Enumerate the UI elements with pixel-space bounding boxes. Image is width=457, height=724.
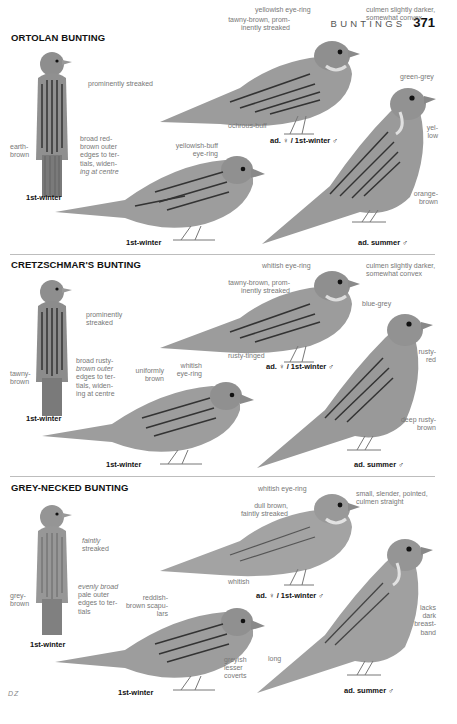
annotation-lacks-dark-breast-band: lacksdark breast-band	[412, 604, 436, 637]
annotation-prominently-streaked: prominently streaked	[88, 80, 153, 88]
annotation-whitish: whitish	[228, 578, 249, 586]
annotation-culmen: culmen slightly darker,somewhat convex	[366, 262, 435, 278]
annotation-grey-brown: grey-brown	[10, 592, 34, 608]
annotation-long-tail: long	[268, 655, 281, 663]
annotation-culmen: culmen slightly darker,somewhat convex	[366, 6, 435, 22]
annotation-orange-brown: orange-brown	[408, 190, 438, 206]
caption-juvenile: 1st-winter	[106, 460, 141, 469]
annotation-earth-brown: earth-brown	[10, 143, 34, 159]
caption-male: ad. summer ♂	[354, 460, 404, 469]
annotation-faintly-streaked: faintlystreaked	[82, 537, 109, 553]
annotation-whitish-eye-ring: whitish eye-ring	[262, 262, 311, 270]
annotation-prominently-streaked: prominentlystreaked	[86, 311, 122, 327]
annotation-rusty-red: rusty-red	[414, 348, 436, 364]
annotation-yellowish-buff-eye-ring: yellowish-buffeye-ring	[170, 142, 218, 158]
bird-illustration-male	[255, 310, 435, 470]
bird-illustration-juvenile	[55, 150, 265, 245]
caption-juvenile: 1st-winter	[126, 238, 161, 247]
caption-juvenile: 1st-winter	[118, 688, 153, 697]
annotation-yellow-throat: yel-low	[420, 124, 438, 140]
annotation-whitish-eye-ring: whitish eye-ring	[258, 485, 307, 493]
annotation-culmen: small, slender, pointed,culmen straight	[356, 490, 428, 506]
bird-illustration-male	[260, 82, 440, 247]
species-title-grey-necked: GREY-NECKED BUNTING	[11, 482, 129, 493]
annotation-uniformly-brown: uniformlybrown	[130, 367, 164, 383]
bird-illustration-male	[255, 535, 435, 695]
annotation-dull-brown: dull brown,faintly streaked	[230, 502, 288, 518]
annotation-green-grey: green-grey	[400, 73, 434, 81]
species-title-ortolan: ORTOLAN BUNTING	[11, 32, 105, 43]
annotation-greyish-lesser-coverts: greyishlessercoverts	[224, 656, 247, 681]
annotation-tawny-brown: tawny-brown	[10, 370, 34, 386]
bird-illustration-juvenile	[42, 378, 252, 468]
species-title-cretzschmars: CRETZSCHMAR'S BUNTING	[11, 259, 141, 270]
caption-male: ad. summer ♂	[358, 238, 408, 247]
annotation-yellowish-eye-ring: yellowish eye-ring	[255, 6, 311, 14]
annotation-reddish-brown-scapulars: reddish-brown scapu-lars	[124, 594, 168, 619]
artist-credit: DZ	[8, 690, 19, 697]
annotation-whitish-eye-ring: whitisheye-ring	[170, 362, 202, 378]
annotation-blue-grey: blue-grey	[362, 300, 391, 308]
section-divider	[10, 254, 435, 255]
annotation-tawny-brown-mantle: tawny-brown, prom-inently streaked	[206, 279, 290, 295]
caption-male: ad. summer ♂	[344, 686, 394, 695]
annotation-tawny-brown-mantle: tawny-brown, prom-inently streaked	[208, 16, 290, 32]
section-divider	[10, 476, 435, 477]
annotation-deep-rusty-brown: deep rusty-brown	[390, 416, 436, 432]
